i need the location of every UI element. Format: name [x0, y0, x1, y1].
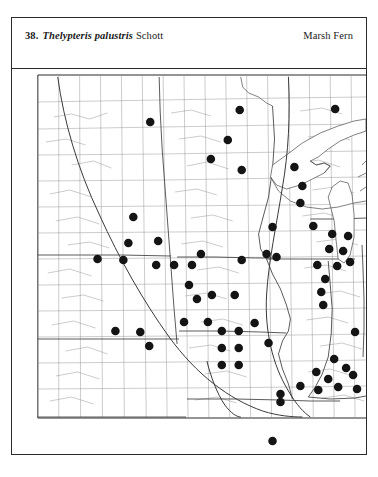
occurrence-dot — [218, 327, 227, 336]
occurrence-dot — [111, 327, 120, 336]
occurrence-dot — [170, 261, 179, 270]
occurrence-dot-layer — [93, 105, 361, 446]
occurrence-dot — [339, 247, 348, 256]
occurrence-dot — [250, 319, 259, 328]
map-svg — [12, 69, 366, 455]
occurrence-dot — [234, 344, 243, 353]
occurrence-dot — [349, 371, 358, 380]
occurrence-dot — [342, 364, 351, 373]
occurrence-dot — [314, 386, 323, 395]
occurrence-dot — [218, 344, 227, 353]
occurrence-dot — [193, 295, 202, 304]
occurrence-dot — [268, 437, 277, 446]
occurrence-dot — [234, 361, 243, 370]
occurrence-dot — [224, 136, 233, 145]
occurrence-dot — [119, 256, 128, 265]
occurrence-dot — [207, 155, 216, 164]
occurrence-dot — [230, 291, 239, 300]
occurrence-dot — [188, 261, 197, 270]
occurrence-dot — [180, 318, 189, 327]
occurrence-dot — [124, 239, 133, 248]
county-boundaries-west — [38, 76, 181, 417]
occurrence-dot — [312, 368, 321, 377]
occurrence-dot — [328, 230, 337, 239]
common-name: Marsh Fern — [303, 29, 353, 42]
page-canvas: 38.Thelypteris palustrisSchott Marsh Fer… — [0, 0, 378, 477]
caption-species-line: 38.Thelypteris palustrisSchott — [25, 29, 163, 42]
occurrence-dot — [276, 398, 285, 407]
occurrence-dot — [185, 281, 194, 290]
occurrence-dot — [325, 245, 334, 254]
occurrence-dot — [264, 339, 273, 348]
occurrence-dot — [268, 223, 277, 232]
occurrence-dot — [204, 318, 213, 327]
species-authority: Schott — [136, 30, 163, 41]
occurrence-dot — [129, 213, 138, 222]
plate-frame: 38.Thelypteris palustrisSchott Marsh Fer… — [11, 17, 367, 455]
occurrence-dot — [152, 261, 161, 270]
occurrence-dot — [234, 327, 243, 336]
occurrence-dot — [351, 328, 360, 337]
occurrence-dot — [313, 261, 322, 270]
occurrence-dot — [218, 361, 227, 370]
occurrence-dot — [237, 256, 246, 265]
occurrence-dot — [262, 250, 271, 259]
occurrence-dot — [317, 288, 326, 297]
occurrence-dot — [237, 166, 246, 175]
occurrence-dot — [235, 106, 244, 115]
occurrence-dot — [197, 250, 206, 259]
occurrence-dot — [330, 355, 339, 364]
distribution-map — [12, 69, 366, 455]
occurrence-dot — [334, 383, 343, 392]
occurrence-dot — [353, 385, 362, 394]
occurrence-dot — [333, 262, 342, 271]
county-boundaries-central — [161, 76, 302, 417]
occurrence-dot — [321, 275, 330, 284]
species-name: Thelypteris palustris — [42, 30, 132, 41]
occurrence-dot — [276, 390, 285, 399]
occurrence-dot — [208, 291, 217, 300]
occurrence-dot — [93, 255, 102, 264]
occurrence-dot — [272, 253, 281, 262]
occurrence-dot — [296, 199, 305, 208]
plate-caption: 38.Thelypteris palustrisSchott Marsh Fer… — [12, 18, 366, 69]
occurrence-dot — [298, 182, 307, 191]
occurrence-dot — [296, 382, 305, 391]
occurrence-dot — [319, 301, 328, 310]
occurrence-dot — [145, 342, 154, 351]
occurrence-dot — [146, 118, 155, 127]
occurrence-dot — [331, 105, 340, 114]
plate-number: 38. — [25, 30, 38, 41]
occurrence-dot — [346, 258, 355, 267]
occurrence-dot — [344, 232, 353, 241]
occurrence-dot — [154, 237, 163, 246]
occurrence-dot — [136, 328, 145, 337]
occurrence-dot — [324, 375, 333, 384]
occurrence-dot — [309, 222, 318, 231]
occurrence-dot — [290, 163, 299, 172]
